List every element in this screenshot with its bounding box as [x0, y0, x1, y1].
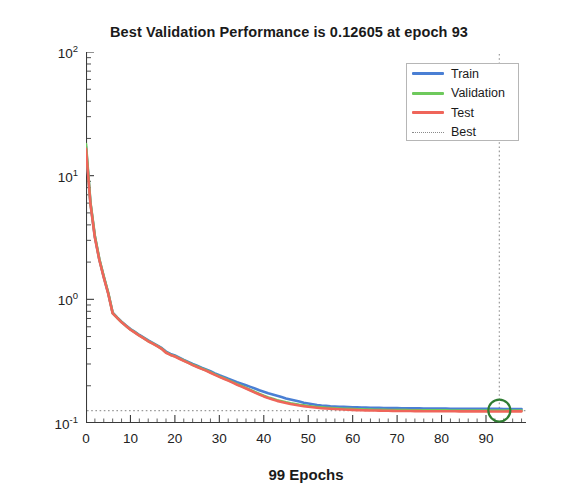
x-tick-label: 10 [113, 431, 147, 446]
y-tick-label: 102 [14, 43, 78, 61]
legend-item-label: Validation [451, 86, 505, 100]
x-tick-label: 30 [202, 431, 236, 446]
x-tick-label: 90 [469, 431, 503, 446]
legend-item-label: Best [451, 125, 476, 139]
page-title: Best Validation Performance is 0.12605 a… [0, 24, 578, 40]
legend-swatch-icon [412, 72, 444, 75]
y-tick-label: 100 [14, 290, 78, 308]
legend: TrainValidationTestBest [406, 63, 519, 141]
legend-item-validation[interactable]: Validation [407, 84, 518, 104]
x-tick-label: 60 [336, 431, 370, 446]
series-line-validation [86, 144, 522, 410]
y-tick-label: 10-1 [14, 414, 78, 432]
legend-swatch-icon [412, 92, 444, 95]
legend-item-label: Test [451, 106, 474, 120]
x-tick-label: 80 [425, 431, 459, 446]
legend-swatch-icon [412, 132, 444, 133]
legend-item-label: Train [451, 67, 479, 81]
y-tick-label: 101 [14, 167, 78, 185]
x-tick-label: 20 [158, 431, 192, 446]
x-tick-label: 50 [291, 431, 325, 446]
legend-item-test[interactable]: Test [407, 103, 518, 123]
series-line-test [86, 149, 522, 412]
series-line-train [86, 147, 522, 409]
legend-item-train[interactable]: Train [407, 64, 518, 84]
x-tick-label: 70 [380, 431, 414, 446]
x-axis-label: 99 Epochs [86, 466, 526, 483]
performance-plot-figure: Best Validation Performance is 0.12605 a… [0, 0, 578, 504]
legend-swatch-icon [412, 111, 444, 114]
legend-item-best[interactable]: Best [407, 123, 518, 143]
x-tick-label: 40 [247, 431, 281, 446]
x-tick-label: 0 [69, 431, 103, 446]
